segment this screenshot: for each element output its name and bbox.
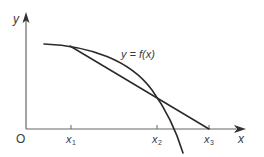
- x1-label: x1: [66, 134, 76, 146]
- x3-label-var: x: [204, 133, 210, 145]
- x3-label: x3: [204, 134, 214, 146]
- x1-label-sub: 1: [72, 139, 76, 146]
- x3-label-sub: 3: [210, 139, 214, 146]
- x2-label-var: x: [152, 133, 158, 145]
- y-axis-label: y: [13, 13, 19, 25]
- x2-label-sub: 2: [158, 139, 162, 146]
- x-axis-label: x: [238, 133, 244, 145]
- curve-label: y = f(x): [121, 49, 155, 60]
- curve-f-of-x: [44, 44, 183, 153]
- x2-label: x2: [152, 134, 162, 146]
- diagram-canvas: [0, 0, 264, 157]
- origin-label: O: [16, 133, 25, 145]
- x1-label-var: x: [66, 133, 72, 145]
